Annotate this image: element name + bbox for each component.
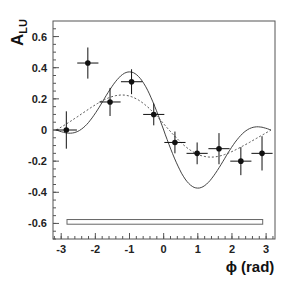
x-axis-label: ϕ (rad) [226,258,275,275]
point-marker [151,112,157,118]
chart: -3-2-10123-0.6-0.4-0.200.20.40.6 ϕ (rad)… [0,0,289,293]
solid-model-curve [56,72,271,188]
x-tick-label: -1 [125,243,135,255]
point-marker [259,151,265,157]
data-point [230,147,251,175]
y-axis-label-subscript: LU [17,19,29,34]
data-point [77,47,98,78]
x-tick-label: 3 [263,243,269,255]
x-tick-label: 0 [161,243,167,255]
data-point [164,132,185,154]
point-marker [85,60,91,66]
point-marker [172,140,178,146]
y-tick-label: 0 [41,124,47,136]
point-marker [238,158,244,164]
point-marker [216,146,222,152]
x-tick-label: -3 [56,243,66,255]
data-point [99,88,120,116]
x-tick-label: -2 [90,243,100,255]
data-point [208,133,229,164]
svg-text:ALU: ALU [8,19,29,46]
y-tick-label: 0.2 [32,93,47,105]
y-tick-label: -0.2 [28,155,47,167]
dotted-model-curve [56,95,271,157]
y-tick-label: 0.4 [32,62,48,74]
y-tick-label: -0.6 [28,217,47,229]
data-point [56,111,77,148]
point-marker [64,127,70,133]
x-tick-label: 1 [195,243,201,255]
data-point [251,136,272,170]
major-ticks [53,37,266,239]
x-tick-label: 2 [229,243,235,255]
point-marker [194,151,200,157]
data-points [56,47,273,175]
y-axis-label-main: A [8,34,27,46]
y-tick-label: 0.6 [32,31,47,43]
data-point [187,142,208,164]
y-axis-label: ALU [8,19,29,46]
point-marker [107,99,113,105]
minor-ticks [53,29,273,239]
y-tick-label: -0.4 [28,186,48,198]
systematic-uncertainty-band [67,220,263,225]
point-marker [129,79,135,85]
